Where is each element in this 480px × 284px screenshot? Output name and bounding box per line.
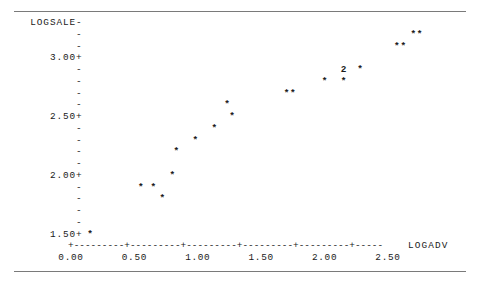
y-axis-major-tick: + xyxy=(76,229,82,241)
plot-row: LOGSALE- xyxy=(0,17,480,29)
x-axis-tick-label: 0.00 xyxy=(54,252,88,264)
data-point-marker: * xyxy=(192,135,199,147)
y-axis-tick-label: 1.50 xyxy=(22,229,76,241)
data-point-marker: * xyxy=(223,99,230,111)
y-axis-minor-tick: - xyxy=(76,182,82,194)
plot-row: -* xyxy=(0,193,480,205)
y-axis-name: LOGSALE xyxy=(22,17,76,29)
data-point-marker: * xyxy=(340,76,347,88)
character-plot-canvas: LOGSALE--**-**3.00+-2*-**-**-*2.50+*-*-*… xyxy=(0,17,480,267)
data-point-marker: * xyxy=(150,182,157,194)
x-axis-line: +---------+---------+---------+---------… xyxy=(68,240,383,252)
plot-row: - xyxy=(0,205,480,217)
plot-row: - xyxy=(0,217,480,229)
plot-row: -2* xyxy=(0,64,480,76)
y-axis-minor-tick: - xyxy=(76,64,82,76)
data-point-marker: * xyxy=(321,76,328,88)
data-point-marker: * xyxy=(169,170,176,182)
plot-row: -** xyxy=(0,76,480,88)
y-axis-major-tick: + xyxy=(76,111,82,123)
y-axis-minor-tick: - xyxy=(76,146,82,158)
y-axis-minor-tick: - xyxy=(76,205,82,217)
clipped-header-remnant: - - - . - . - - . - - xyxy=(0,0,480,10)
x-axis-tick-label: 2.50 xyxy=(371,252,405,264)
y-axis-major-tick: + xyxy=(76,52,82,64)
data-point-marker: * xyxy=(87,229,94,241)
data-point-marker: * xyxy=(357,64,364,76)
plot-row: 2.50+* xyxy=(0,111,480,123)
x-axis-tick-label: 0.50 xyxy=(117,252,151,264)
x-axis-row: +---------+---------+---------+---------… xyxy=(0,240,480,252)
y-axis-minor-tick: - xyxy=(76,29,82,41)
y-axis-minor-tick: - xyxy=(76,135,82,147)
y-axis-minor-tick: - xyxy=(76,99,82,111)
plot-row: -* xyxy=(0,99,480,111)
data-point-marker: * xyxy=(211,123,218,135)
plot-row: -** xyxy=(0,182,480,194)
plot-row: -** xyxy=(0,29,480,41)
y-axis-minor-tick: - xyxy=(76,88,82,100)
clipped-header-text: - - - . - . - - . - - xyxy=(108,0,326,1)
plot-row: -* xyxy=(0,146,480,158)
y-axis-tick-label: 3.00 xyxy=(22,52,76,64)
data-point-marker: * xyxy=(416,29,423,41)
data-point-marker: * xyxy=(159,193,166,205)
y-axis-minor-tick: - xyxy=(76,41,82,53)
bottom-horizontal-rule xyxy=(14,271,466,272)
x-axis-tick-label-row: 0.000.501.001.502.002.50 xyxy=(0,252,480,264)
plot-row: 1.50+* xyxy=(0,229,480,241)
data-point-marker: * xyxy=(173,146,180,158)
x-axis-tick-label: 2.00 xyxy=(308,252,342,264)
data-point-marker: * xyxy=(229,111,236,123)
y-axis-minor-tick: - xyxy=(76,76,82,88)
plot-row: -** xyxy=(0,88,480,100)
plot-row: - xyxy=(0,158,480,170)
y-axis-minor-tick: - xyxy=(76,217,82,229)
x-axis-tick-label: 1.50 xyxy=(244,252,278,264)
plot-row: -** xyxy=(0,41,480,53)
top-horizontal-rule xyxy=(14,11,466,12)
x-axis-name: LOGADV xyxy=(408,240,448,252)
plot-page: - - - . - . - - . - - LOGSALE--**-**3.00… xyxy=(0,0,480,284)
y-axis-minor-tick: - xyxy=(76,123,82,135)
data-point-marker: * xyxy=(289,88,296,100)
data-point-count-label: 2 xyxy=(340,64,347,76)
y-axis-tick-label: 2.00 xyxy=(22,170,76,182)
y-axis-tick-label: 2.50 xyxy=(22,111,76,123)
data-point-marker: * xyxy=(400,41,407,53)
plot-row: -* xyxy=(0,135,480,147)
plot-row: 3.00+ xyxy=(0,52,480,64)
x-axis-tick-label: 1.00 xyxy=(181,252,215,264)
y-axis-minor-tick: - xyxy=(76,158,82,170)
plot-row: -* xyxy=(0,123,480,135)
plot-row: 2.00+* xyxy=(0,170,480,182)
y-axis-major-tick: + xyxy=(76,170,82,182)
data-point-marker: * xyxy=(137,182,144,194)
y-axis-minor-tick: - xyxy=(76,17,82,29)
y-axis-minor-tick: - xyxy=(76,193,82,205)
